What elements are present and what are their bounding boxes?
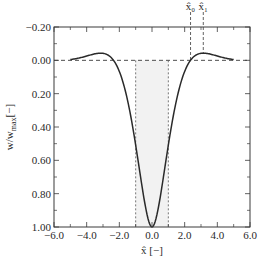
shaded-region <box>136 60 169 227</box>
x-tick-label: 2.0 <box>178 229 192 241</box>
y-tick-label: 0.80 <box>32 188 52 200</box>
y-axis-title-unit: [−] <box>3 104 15 118</box>
y-tick-label: 0.00 <box>32 54 52 66</box>
x-tick-label: 6.0 <box>243 229 257 241</box>
y-tick-label: 1.00 <box>32 221 52 233</box>
y-tick-label: 0.20 <box>32 88 52 100</box>
y-tick-label: 0.40 <box>32 121 52 133</box>
x-tick-label: 4.0 <box>210 229 224 241</box>
x-tick-label: −4.0 <box>77 229 97 241</box>
x-tick-label: 0.0 <box>145 229 159 241</box>
annotation-label-1: x̂₁ <box>199 0 209 12</box>
annotation-label-0: x̂₀ <box>186 0 196 12</box>
x-tick-label: −2.0 <box>109 229 129 241</box>
y-tick-label: −0.20 <box>26 21 52 33</box>
y-axis-title-main: w/w <box>3 131 15 150</box>
y-tick-label: 0.60 <box>32 154 52 166</box>
chart: x̂₀x̂₁−6.0−4.0−2.00.02.04.06.0−0.200.000… <box>0 0 268 271</box>
y-axis-title-subscript: max <box>9 117 18 131</box>
x-axis-title: x̂ [−] <box>141 244 163 256</box>
